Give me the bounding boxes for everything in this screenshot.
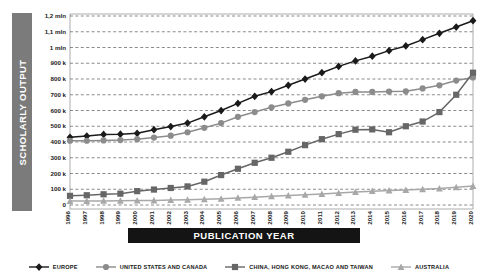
data-point (285, 149, 291, 155)
x-axis-tick-label: 2011 (316, 210, 323, 224)
legend-label: EUROPE (53, 264, 78, 270)
x-axis-tick-label: 2001 (148, 210, 155, 224)
data-point (67, 138, 73, 144)
chart-container: SCHOLARLY OUTPUT 0100 k200 k300 k400 k50… (0, 0, 477, 278)
data-point (336, 90, 342, 96)
data-point (184, 183, 190, 189)
x-axis-tick-label: 2014 (366, 210, 373, 224)
data-point (201, 125, 207, 131)
data-point (218, 120, 224, 126)
legend-label: AUSTRALIA (415, 264, 449, 270)
legend-label: CHINA, HONG KONG, MACAO AND TAIWAN (249, 264, 373, 270)
chart-legend: EUROPEUNITED STATES AND CANADACHINA, HON… (0, 258, 477, 276)
y-axis-tick-label: 100 k (51, 185, 67, 192)
data-point (151, 134, 157, 140)
legend-item[interactable]: UNITED STATES AND CANADA (95, 262, 208, 272)
data-point (117, 137, 123, 143)
data-point (319, 93, 325, 99)
data-point (84, 138, 90, 144)
data-point (369, 126, 375, 132)
data-point (184, 129, 190, 135)
data-point (420, 118, 426, 124)
data-point (453, 77, 459, 83)
x-axis-tick-label: 2009 (282, 210, 289, 224)
x-axis-tick-label: 2008 (266, 210, 273, 224)
data-point (151, 186, 157, 192)
x-axis-tick-label: 2017 (417, 210, 424, 224)
data-point (84, 192, 90, 198)
x-axis-tick-label: 2013 (349, 210, 356, 224)
y-axis-tick-label: 200 k (51, 170, 67, 177)
data-point (100, 191, 106, 197)
legend-marker-icon (224, 262, 246, 272)
data-point (35, 263, 42, 271)
data-point (100, 137, 106, 143)
x-axis-tick-label: 2000 (131, 210, 138, 224)
data-point (235, 166, 241, 172)
x-axis-title-bar: PUBLICATION YEAR (128, 228, 360, 243)
x-axis-tick-label: 2012 (333, 210, 340, 224)
data-point (285, 100, 291, 106)
legend-item[interactable]: CHINA, HONG KONG, MACAO AND TAIWAN (224, 262, 373, 272)
x-axis-tick-label: 2005 (215, 210, 222, 224)
data-point (470, 70, 476, 76)
legend-marker-icon (95, 262, 117, 272)
data-point (403, 88, 409, 94)
y-axis-tick-label: 700 k (51, 91, 67, 98)
data-point (403, 123, 409, 129)
y-axis-tick-label: 0 (63, 201, 67, 208)
legend-marker-icon (390, 262, 412, 272)
y-axis-title: SCHOLARLY OUTPUT (17, 59, 28, 165)
data-point (201, 179, 207, 185)
data-point (302, 97, 308, 103)
data-point (386, 89, 392, 95)
x-axis-tick-label: 1996 (64, 210, 71, 224)
data-point (134, 136, 140, 142)
data-point (232, 264, 238, 270)
data-point (352, 89, 358, 95)
x-axis-tick-label: 2002 (165, 210, 172, 224)
x-axis-tick-label: 1999 (114, 210, 121, 224)
legend-marker-icon (28, 262, 50, 272)
plot-area: 0100 k200 k300 k400 k500 k600 k700 k800 … (40, 8, 477, 228)
x-axis-tick-label: 2010 (299, 210, 306, 224)
data-point (436, 82, 442, 88)
x-axis-tick-label: 1998 (98, 210, 105, 224)
data-point (168, 185, 174, 191)
data-point (268, 155, 274, 161)
x-axis-tick-label: 2006 (232, 210, 239, 224)
y-axis-tick-label: 400 k (51, 138, 67, 145)
x-axis-title: PUBLICATION YEAR (193, 230, 294, 241)
data-point (352, 127, 358, 133)
x-axis-tick-label: 2003 (182, 210, 189, 224)
x-axis-tick-label: 2007 (249, 210, 256, 224)
data-point (319, 136, 325, 142)
data-point (336, 131, 342, 137)
y-axis-tick-label: 1 mln (50, 44, 66, 51)
y-axis-tick-label: 1,1 mln (45, 28, 67, 35)
data-point (252, 160, 258, 166)
data-point (134, 188, 140, 194)
data-point (453, 92, 459, 98)
data-point (252, 109, 258, 115)
data-point (117, 191, 123, 197)
data-point (168, 133, 174, 139)
x-axis-tick-label: 2018 (433, 210, 440, 224)
y-axis-title-bar: SCHOLARLY OUTPUT (12, 13, 32, 211)
y-axis-tick-label: 600 k (51, 107, 67, 114)
data-point (436, 109, 442, 115)
y-axis-tick-label: 1,2 mln (45, 12, 67, 19)
data-point (218, 172, 224, 178)
y-axis-tick-label: 500 k (51, 122, 67, 129)
legend-item[interactable]: EUROPE (28, 262, 78, 272)
plot-svg: 0100 k200 k300 k400 k500 k600 k700 k800 … (40, 8, 477, 228)
legend-label: UNITED STATES AND CANADA (120, 264, 208, 270)
data-point (302, 142, 308, 148)
y-axis-tick-label: 800 k (51, 75, 67, 82)
x-axis-tick-label: 2015 (383, 210, 390, 224)
x-axis-tick-label: 2016 (400, 210, 407, 224)
legend-item[interactable]: AUSTRALIA (390, 262, 449, 272)
x-axis-tick-label: 2020 (467, 210, 474, 224)
data-point (369, 89, 375, 95)
x-axis-tick-label: 1997 (81, 210, 88, 224)
